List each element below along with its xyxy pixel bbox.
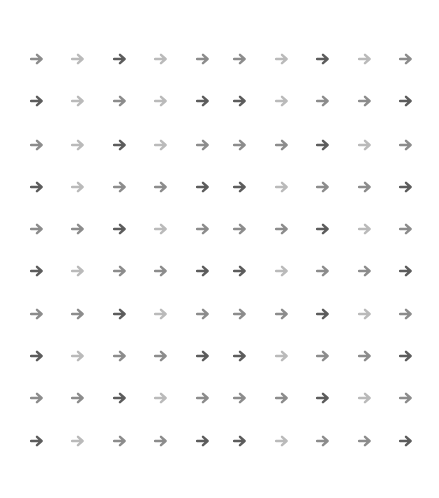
arrow-right-icon bbox=[30, 223, 44, 235]
arrow-right-icon bbox=[399, 181, 413, 193]
arrow-right-icon bbox=[275, 181, 289, 193]
arrow-right-icon bbox=[399, 95, 413, 107]
arrow-right-icon bbox=[399, 435, 413, 447]
arrow-right-icon bbox=[196, 139, 210, 151]
arrow-right-icon bbox=[358, 139, 372, 151]
arrow-right-icon bbox=[358, 308, 372, 320]
arrow-right-icon bbox=[358, 435, 372, 447]
arrow-right-icon bbox=[71, 139, 85, 151]
arrow-right-icon bbox=[154, 265, 168, 277]
arrow-right-icon bbox=[71, 392, 85, 404]
arrow-right-icon bbox=[316, 350, 330, 362]
arrow-right-icon bbox=[196, 308, 210, 320]
arrow-right-icon bbox=[316, 392, 330, 404]
arrow-right-icon bbox=[30, 265, 44, 277]
arrow-right-icon bbox=[196, 223, 210, 235]
arrow-right-icon bbox=[316, 181, 330, 193]
arrow-right-icon bbox=[30, 181, 44, 193]
arrow-right-icon bbox=[316, 435, 330, 447]
arrow-right-icon bbox=[275, 392, 289, 404]
arrow-right-icon bbox=[316, 139, 330, 151]
arrow-right-icon bbox=[358, 53, 372, 65]
arrow-right-icon bbox=[399, 308, 413, 320]
arrow-right-icon bbox=[358, 181, 372, 193]
arrow-right-icon bbox=[113, 53, 127, 65]
arrow-right-icon bbox=[30, 139, 44, 151]
arrow-right-icon bbox=[316, 308, 330, 320]
arrow-right-icon bbox=[71, 350, 85, 362]
arrow-right-icon bbox=[196, 53, 210, 65]
arrow-right-icon bbox=[233, 265, 247, 277]
arrow-right-icon bbox=[358, 95, 372, 107]
arrow-right-icon bbox=[71, 308, 85, 320]
arrow-right-icon bbox=[233, 95, 247, 107]
arrow-right-icon bbox=[113, 223, 127, 235]
arrow-right-icon bbox=[30, 95, 44, 107]
arrow-right-icon bbox=[358, 350, 372, 362]
arrow-right-icon bbox=[399, 265, 413, 277]
arrow-right-icon bbox=[399, 392, 413, 404]
arrow-right-icon bbox=[154, 308, 168, 320]
arrow-right-icon bbox=[154, 223, 168, 235]
arrow-right-icon bbox=[275, 223, 289, 235]
arrow-right-icon bbox=[316, 95, 330, 107]
arrow-right-icon bbox=[196, 392, 210, 404]
arrow-right-icon bbox=[399, 139, 413, 151]
arrow-right-icon bbox=[358, 392, 372, 404]
arrow-right-icon bbox=[154, 350, 168, 362]
arrow-right-icon bbox=[154, 139, 168, 151]
arrow-right-icon bbox=[113, 435, 127, 447]
arrow-right-icon bbox=[30, 435, 44, 447]
arrow-right-icon bbox=[316, 223, 330, 235]
arrow-right-icon bbox=[196, 95, 210, 107]
arrow-right-icon bbox=[113, 350, 127, 362]
arrow-right-icon bbox=[399, 53, 413, 65]
arrow-right-icon bbox=[71, 53, 85, 65]
arrow-right-icon bbox=[233, 181, 247, 193]
arrow-right-icon bbox=[71, 223, 85, 235]
arrow-right-icon bbox=[113, 181, 127, 193]
arrow-right-icon bbox=[275, 350, 289, 362]
arrow-right-icon bbox=[30, 350, 44, 362]
arrow-right-icon bbox=[154, 435, 168, 447]
arrow-right-icon bbox=[399, 223, 413, 235]
arrow-right-icon bbox=[30, 392, 44, 404]
arrow-right-icon bbox=[233, 53, 247, 65]
arrow-right-icon bbox=[113, 308, 127, 320]
arrow-right-icon bbox=[113, 139, 127, 151]
arrow-right-icon bbox=[275, 139, 289, 151]
arrow-right-icon bbox=[196, 181, 210, 193]
arrow-right-icon bbox=[275, 95, 289, 107]
arrow-right-icon bbox=[399, 350, 413, 362]
arrow-right-icon bbox=[316, 265, 330, 277]
arrow-right-icon bbox=[30, 53, 44, 65]
arrow-right-icon bbox=[358, 265, 372, 277]
arrow-right-icon bbox=[196, 265, 210, 277]
arrow-right-icon bbox=[275, 265, 289, 277]
arrow-right-icon bbox=[71, 181, 85, 193]
arrow-right-icon bbox=[71, 265, 85, 277]
arrow-right-icon bbox=[113, 265, 127, 277]
arrow-right-icon bbox=[154, 95, 168, 107]
arrow-right-icon bbox=[196, 435, 210, 447]
arrow-right-icon bbox=[233, 350, 247, 362]
arrow-right-icon bbox=[316, 53, 330, 65]
arrow-right-icon bbox=[275, 308, 289, 320]
arrow-right-icon bbox=[113, 392, 127, 404]
arrow-right-icon bbox=[154, 392, 168, 404]
arrow-right-icon bbox=[233, 392, 247, 404]
arrow-right-icon bbox=[30, 308, 44, 320]
arrow-right-icon bbox=[275, 53, 289, 65]
arrow-right-icon bbox=[358, 223, 372, 235]
arrow-right-icon bbox=[113, 95, 127, 107]
arrow-right-icon bbox=[275, 435, 289, 447]
arrow-right-icon bbox=[71, 435, 85, 447]
arrow-right-icon bbox=[71, 95, 85, 107]
arrow-grid bbox=[0, 0, 439, 498]
arrow-right-icon bbox=[154, 181, 168, 193]
arrow-right-icon bbox=[233, 308, 247, 320]
arrow-right-icon bbox=[233, 223, 247, 235]
arrow-right-icon bbox=[196, 350, 210, 362]
arrow-right-icon bbox=[154, 53, 168, 65]
arrow-right-icon bbox=[233, 435, 247, 447]
